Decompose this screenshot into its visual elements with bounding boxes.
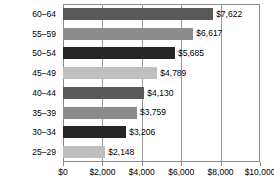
bar (63, 47, 175, 59)
y-axis-category-labels: 60–6455–5950–5445–4940–4435–3930–3425–29 (0, 4, 60, 162)
y-axis-label: 30–34 (32, 123, 56, 143)
bar (63, 8, 213, 20)
bar-row: $3,206 (63, 123, 260, 143)
bar-rows: $7,622$6,617$5,685$4,789$4,130$3,759$3,2… (63, 4, 260, 162)
x-axis-tick-label: $10,000 (245, 167, 274, 177)
bar-value-label: $5,685 (175, 49, 204, 58)
x-axis-tick (142, 162, 143, 166)
bar-value-label: $2,148 (105, 148, 134, 157)
x-axis-tick (181, 162, 182, 166)
bar-row: $3,759 (63, 103, 260, 123)
bar (63, 107, 137, 119)
x-axis-tick-labels: $0$2,000$4,000$6,000$8,000$10,000 (0, 167, 274, 181)
y-axis-label: 60–64 (32, 4, 56, 24)
bar-value-label: $4,789 (157, 69, 186, 78)
x-axis-tick (102, 162, 103, 166)
y-axis-label: 55–59 (32, 24, 56, 44)
bar-row: $4,789 (63, 63, 260, 83)
bar-row: $7,622 (63, 4, 260, 24)
x-axis-tick-label: $6,000 (168, 167, 194, 177)
x-axis-tick-label: $0 (58, 167, 67, 177)
bar-row: $6,617 (63, 24, 260, 44)
x-axis-tick (260, 162, 261, 166)
bar (63, 146, 105, 158)
y-axis-label: 45–49 (32, 63, 56, 83)
x-axis-tick-label: $4,000 (129, 167, 155, 177)
bar (63, 28, 193, 40)
bar-value-label: $3,206 (126, 128, 155, 137)
bar-chart: $7,622$6,617$5,685$4,789$4,130$3,759$3,2… (0, 0, 274, 186)
x-axis-tick-label: $2,000 (89, 167, 115, 177)
y-axis-label: 25–29 (32, 142, 56, 162)
bar (63, 126, 126, 138)
bar-value-label: $4,130 (144, 89, 173, 98)
bar-row: $2,148 (63, 142, 260, 162)
bar-row: $4,130 (63, 83, 260, 103)
y-axis-label: 50–54 (32, 44, 56, 64)
bar-value-label: $3,759 (137, 108, 166, 117)
bar (63, 67, 157, 79)
bar-row: $5,685 (63, 44, 260, 64)
bar-value-label: $7,622 (213, 10, 242, 19)
bar (63, 87, 144, 99)
y-axis-label: 35–39 (32, 103, 56, 123)
bar-value-label: $6,617 (193, 29, 222, 38)
x-axis-tick (63, 162, 64, 166)
y-axis-label: 40–44 (32, 83, 56, 103)
x-axis-tick-label: $8,000 (208, 167, 234, 177)
x-axis-tick (221, 162, 222, 166)
